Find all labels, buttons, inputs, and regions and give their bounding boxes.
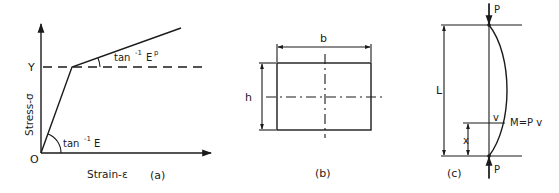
bottom-load-label: P bbox=[494, 164, 500, 175]
top-load-label: P bbox=[494, 4, 500, 15]
svg-text:tan: tan bbox=[114, 52, 130, 63]
svg-text:p: p bbox=[154, 49, 159, 57]
top-pin bbox=[487, 23, 491, 27]
panel-c-column: L x v M=P v P P (c) bbox=[436, 3, 542, 180]
stress-axis-label: Stress-σ bbox=[23, 93, 35, 136]
plastic-angle-arc bbox=[98, 58, 100, 67]
elastic-slope-label: tan -1 E bbox=[63, 135, 100, 149]
length-label: L bbox=[436, 84, 443, 97]
svg-text:tan: tan bbox=[63, 138, 79, 149]
position-label: x bbox=[463, 135, 469, 146]
panel-b-caption: (b) bbox=[315, 167, 331, 180]
plastic-slope-label: tan -1 E p bbox=[114, 49, 159, 63]
panel-a-stress-strain: Y O Stress-σ Strain-ε (a) tan -1 E tan -… bbox=[23, 24, 211, 182]
deflection-label: v bbox=[493, 112, 499, 123]
panel-b-cross-section: b h (b) bbox=[245, 32, 382, 180]
svg-text:-1: -1 bbox=[84, 135, 91, 143]
width-label: b bbox=[320, 32, 327, 45]
svg-text:E: E bbox=[146, 52, 152, 63]
bottom-pin bbox=[487, 154, 491, 158]
yield-label: Y bbox=[27, 61, 35, 74]
height-label: h bbox=[245, 91, 252, 104]
deflected-shape-curve bbox=[489, 25, 507, 156]
elastic-angle-arc bbox=[48, 134, 61, 153]
origin-label: O bbox=[30, 153, 39, 166]
moment-label: M=P v bbox=[510, 117, 542, 128]
figure-canvas: Y O Stress-σ Strain-ε (a) tan -1 E tan -… bbox=[0, 0, 559, 193]
svg-text:E: E bbox=[94, 138, 100, 149]
bilinear-curve bbox=[41, 28, 181, 153]
strain-axis-label: Strain-ε bbox=[87, 168, 128, 180]
panel-a-caption: (a) bbox=[150, 169, 165, 182]
svg-text:-1: -1 bbox=[135, 49, 142, 57]
panel-c-caption: (c) bbox=[447, 167, 462, 180]
